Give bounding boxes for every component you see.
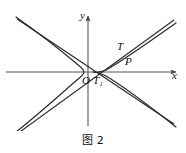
figure-caption: 图 2 [0,131,186,147]
axis-label-x: x [172,70,177,81]
axis-label-y: y [80,10,85,21]
origin-label: O [82,75,90,86]
hyperbola-left-branch [16,17,84,131]
point-label-t1: T₁ [93,75,103,86]
hyperbola-right-branch [93,23,176,127]
point-label-p: P [125,56,132,67]
figure-container: y x O T₁ T P 图 2 [0,0,186,153]
hyperbola-plot [0,0,186,131]
point-label-t: T [117,41,123,52]
